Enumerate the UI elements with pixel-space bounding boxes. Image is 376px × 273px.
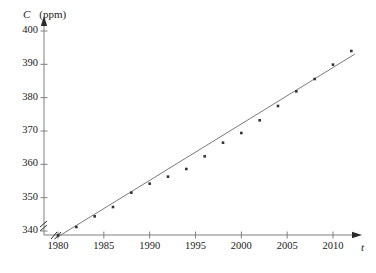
regression-line bbox=[54, 54, 355, 239]
data-point bbox=[167, 175, 170, 178]
x-tick-label: 1980 bbox=[38, 240, 78, 251]
y-tick-label: 390 bbox=[4, 57, 38, 68]
y-tick-label: 360 bbox=[4, 157, 38, 168]
data-point bbox=[148, 182, 151, 185]
x-tick-label: 2010 bbox=[313, 240, 353, 251]
x-tick-label: 1995 bbox=[176, 240, 216, 251]
data-point bbox=[350, 50, 353, 53]
data-point bbox=[332, 63, 335, 66]
x-tick-label: 1985 bbox=[84, 240, 124, 251]
data-point bbox=[112, 206, 115, 209]
data-point bbox=[313, 78, 316, 81]
y-tick-label: 350 bbox=[4, 191, 38, 202]
y-axis-arrowhead bbox=[41, 16, 47, 26]
y-tick-label: 400 bbox=[4, 24, 38, 35]
data-point bbox=[277, 105, 280, 108]
plot-area bbox=[0, 0, 376, 273]
y-tick-label: 370 bbox=[4, 124, 38, 135]
data-point bbox=[93, 215, 96, 218]
x-tick-label: 2005 bbox=[267, 240, 307, 251]
data-point bbox=[258, 119, 261, 122]
x-axis-arrowhead bbox=[352, 232, 362, 238]
co2-scatter-chart: C(ppm) t 3403503603703803904001980198519… bbox=[0, 0, 376, 273]
data-point bbox=[240, 132, 243, 135]
data-point bbox=[222, 141, 225, 144]
x-tick-label: 1990 bbox=[130, 240, 170, 251]
data-point bbox=[203, 155, 206, 158]
data-point bbox=[130, 191, 133, 194]
data-point bbox=[185, 168, 188, 171]
y-tick-label: 340 bbox=[4, 224, 38, 235]
data-point bbox=[75, 226, 78, 229]
x-tick-label: 2000 bbox=[221, 240, 261, 251]
y-tick-label: 380 bbox=[4, 91, 38, 102]
data-point bbox=[57, 234, 60, 237]
data-point bbox=[295, 90, 298, 93]
